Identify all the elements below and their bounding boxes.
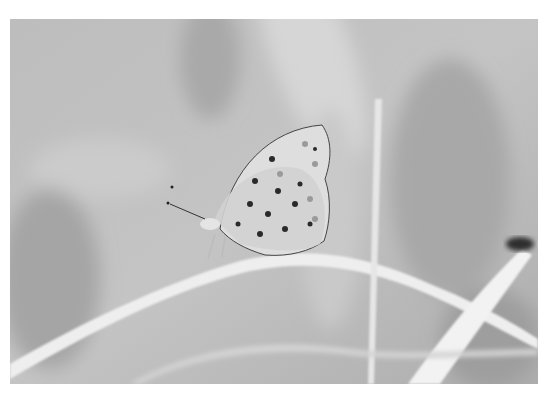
small-insect (506, 237, 534, 251)
butterfly-photo (10, 19, 538, 384)
photo-canvas (10, 19, 538, 384)
